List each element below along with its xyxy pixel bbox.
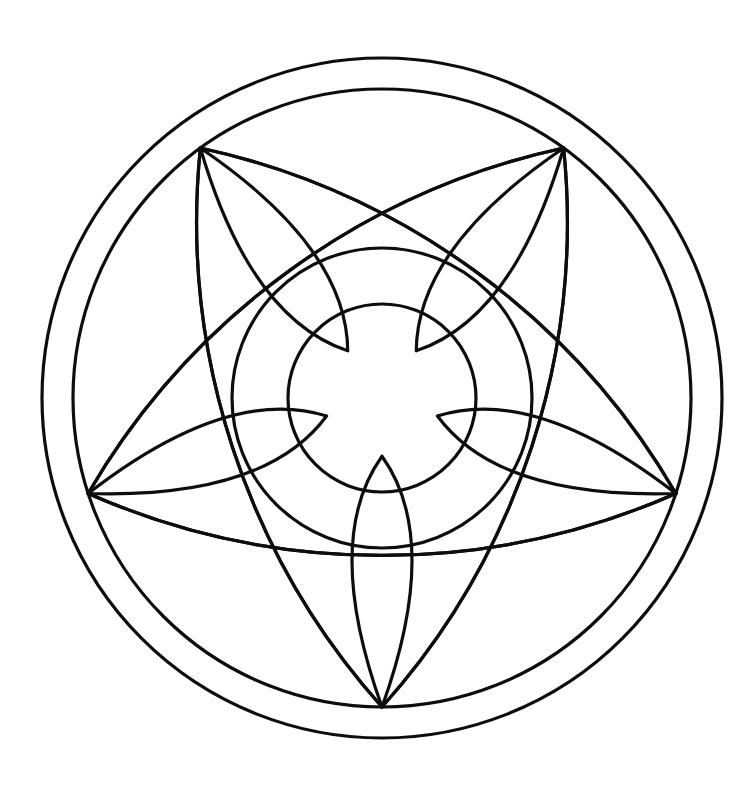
- drawing-canvas: [0, 0, 744, 796]
- mandala-figure: [0, 0, 744, 796]
